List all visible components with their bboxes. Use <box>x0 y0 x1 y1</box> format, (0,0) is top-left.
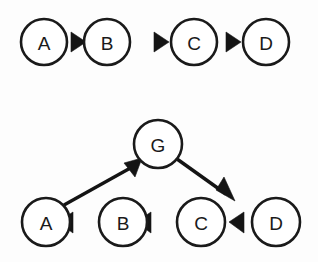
node-top-b-label: B <box>101 33 114 54</box>
node-top-d-label: D <box>259 33 273 54</box>
node-top-a-label: A <box>38 33 51 54</box>
node-bottom-d-label: D <box>269 213 283 234</box>
figure-root: A B C D <box>0 0 318 262</box>
node-top-b[interactable]: B <box>84 19 130 65</box>
node-top-d[interactable]: D <box>243 19 289 65</box>
node-bottom-g-label: G <box>151 135 166 156</box>
node-bottom-b[interactable]: B <box>99 198 147 246</box>
node-bottom-a-label: A <box>40 213 53 234</box>
node-bottom-c[interactable]: C <box>177 198 225 246</box>
graph-diagram-canvas: A B C D <box>0 0 318 262</box>
node-bottom-d[interactable]: D <box>252 198 300 246</box>
node-bottom-a[interactable]: A <box>22 198 70 246</box>
node-top-c-label: C <box>187 33 201 54</box>
node-top-a[interactable]: A <box>21 19 67 65</box>
node-top-c[interactable]: C <box>171 19 217 65</box>
node-bottom-b-label: B <box>117 213 130 234</box>
node-bottom-g[interactable]: G <box>134 120 182 168</box>
node-bottom-c-label: C <box>194 213 208 234</box>
